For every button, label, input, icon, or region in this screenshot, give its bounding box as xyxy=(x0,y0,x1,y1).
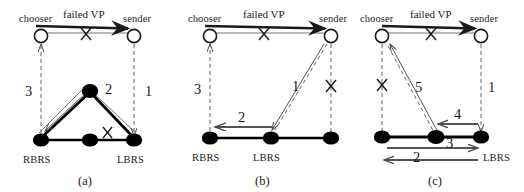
step-1-label: 1 xyxy=(292,79,299,94)
node-sender xyxy=(127,29,140,42)
failed-vp-label: failed VP xyxy=(63,9,105,20)
node-lbrs xyxy=(126,133,142,146)
sender-label: sender xyxy=(123,14,151,25)
step5-dashed-diagonal xyxy=(387,44,436,136)
step-1-label: 1 xyxy=(488,80,495,95)
node-rbrs xyxy=(33,133,49,146)
step2-thin-arrow xyxy=(45,91,88,131)
cross-mark-top xyxy=(426,28,436,40)
failed-vp-arrow xyxy=(205,26,325,29)
node-left xyxy=(374,130,390,143)
node-chooser xyxy=(375,29,388,42)
node-lbrs xyxy=(473,130,489,143)
panel-a: chooser sender failed VP 3 2 1 RBRS LBRS… xyxy=(0,0,175,192)
rbrs-label: RBRS xyxy=(192,153,220,164)
sender-label: sender xyxy=(319,14,347,25)
panel-c: chooser sender failed VP 5 4 3 2 1 LBRS … xyxy=(350,0,524,192)
node-chooser xyxy=(203,29,216,42)
step1-dashed-diagonal xyxy=(275,44,327,130)
failed-vp-arrow xyxy=(382,26,475,29)
step-2-label: 2 xyxy=(105,82,112,97)
node-sender xyxy=(474,29,487,42)
node-rbrs xyxy=(202,131,218,144)
chooser-label: chooser xyxy=(19,14,52,25)
lbrs-label: LBRS xyxy=(483,153,510,164)
step-2-label: 2 xyxy=(238,110,245,125)
node-mid xyxy=(82,133,98,146)
panel-b-caption: (b) xyxy=(255,175,270,188)
step-3-label: 3 xyxy=(446,136,453,151)
node-lbrs xyxy=(263,131,279,144)
panel-c-caption: (c) xyxy=(428,175,442,188)
node-chooser xyxy=(34,29,47,42)
lbrs-label: LBRS xyxy=(253,153,280,164)
node-middle xyxy=(427,130,444,144)
rbrs-label: RBRS xyxy=(23,155,51,166)
step-3-label: 3 xyxy=(25,84,32,99)
figure-canvas: chooser sender failed VP 3 2 1 RBRS LBRS… xyxy=(0,0,524,192)
sender-label: sender xyxy=(470,14,498,25)
apex-right-edge xyxy=(92,94,133,137)
cross-mark-top xyxy=(259,28,269,40)
failed-vp-label: failed VP xyxy=(410,9,452,20)
chooser-label: chooser xyxy=(360,14,393,25)
node-right xyxy=(323,131,339,144)
step-1-label: 1 xyxy=(145,84,152,99)
step-3-label: 3 xyxy=(194,82,201,97)
node-sender xyxy=(324,29,337,42)
cross-mark-bottom xyxy=(103,127,112,138)
step-4-label: 4 xyxy=(454,107,461,122)
panel-a-caption: (a) xyxy=(78,175,92,188)
step-5-label: 5 xyxy=(415,80,422,95)
lbrs-label: LBRS xyxy=(117,155,144,166)
panel-b: chooser sender failed VP 3 2 1 RBRS LBRS… xyxy=(175,0,350,192)
apex-left-edge xyxy=(42,94,88,137)
chooser-label: chooser xyxy=(188,14,221,25)
node-apex xyxy=(82,84,98,98)
failed-vp-label: failed VP xyxy=(243,9,285,20)
step-2-label: 2 xyxy=(413,150,420,165)
cross-mark-top xyxy=(81,28,91,40)
